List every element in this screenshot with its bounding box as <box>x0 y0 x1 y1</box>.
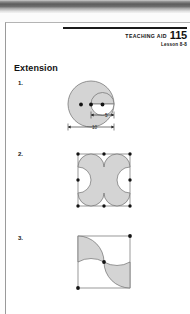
figure-2-dot <box>102 204 105 207</box>
figure-2-dot <box>128 178 131 181</box>
problem-number-1: 1. <box>18 80 23 86</box>
header-rule <box>63 27 187 29</box>
figure-2 <box>72 149 140 215</box>
scan-shadow-bar <box>0 0 190 9</box>
screenshot-root: TEACHING AID 115 Lesson 8-8 Extension 1. <box>0 0 190 314</box>
figure-3-dot <box>102 260 106 264</box>
page-title: Extension <box>14 63 58 73</box>
figure-2-dot <box>128 204 131 207</box>
figure-2-dot <box>102 152 105 155</box>
lesson-label: Lesson 8-8 <box>63 42 187 47</box>
figure-2-dot <box>76 152 79 155</box>
figure-2-dot <box>76 204 79 207</box>
figure-3-dot <box>76 286 80 290</box>
figure-1-dot <box>89 103 93 107</box>
figure-3-dot <box>128 234 132 238</box>
worksheet-page: TEACHING AID 115 Lesson 8-8 Extension 1. <box>5 22 190 314</box>
figure-1: 5 10 <box>61 78 153 133</box>
figure-3 <box>72 231 140 297</box>
figure-1-dimension-10: 10 <box>92 125 97 130</box>
scan-gap <box>0 13 190 22</box>
figure-1-dot <box>101 103 105 107</box>
header-title-line: TEACHING AID 115 <box>63 30 187 41</box>
figure-2-dot <box>76 178 79 181</box>
problem-number-3: 3. <box>18 235 23 241</box>
teaching-aid-number: 115 <box>170 30 187 41</box>
teaching-aid-label: TEACHING AID <box>125 34 166 39</box>
figure-1-dot <box>79 103 83 107</box>
figure-1-dimension-5: 5 <box>105 113 108 118</box>
problem-number-2: 2. <box>18 151 23 157</box>
page-header: TEACHING AID 115 Lesson 8-8 <box>63 27 187 47</box>
figure-2-dot <box>128 152 131 155</box>
